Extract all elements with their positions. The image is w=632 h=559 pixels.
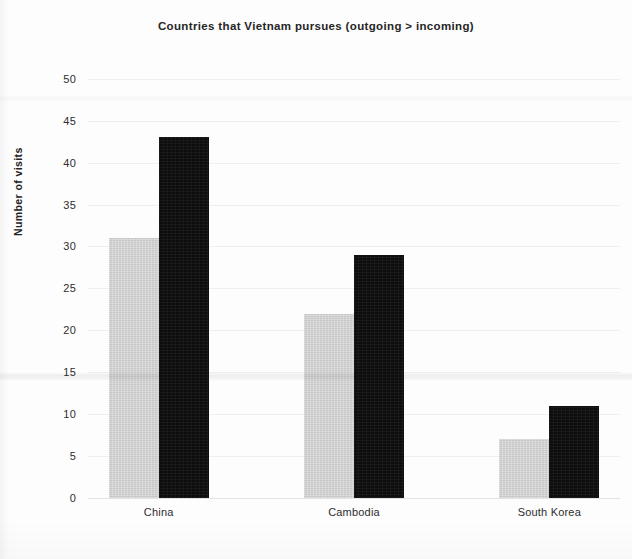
- y-axis-tick-label: 40: [42, 157, 76, 169]
- x-axis-tick-label: Cambodia: [328, 506, 380, 518]
- y-axis-title: Number of visits: [12, 147, 24, 236]
- x-axis-tick-labels: ChinaCambodiaSouth Korea: [88, 506, 620, 528]
- bar-outgoing[interactable]: [354, 255, 404, 498]
- bar-group: [304, 62, 404, 498]
- y-axis-tick-label: 35: [42, 199, 76, 211]
- y-axis-tick-labels: 05101520253035404550: [42, 62, 76, 498]
- bar-outgoing[interactable]: [159, 137, 209, 498]
- y-axis-tick-label: 25: [42, 282, 76, 294]
- bar-incoming[interactable]: [499, 439, 549, 498]
- chart-title: Countries that Vietnam pursues (outgoing…: [0, 20, 632, 32]
- bar-group: [499, 62, 599, 498]
- bar-group: [109, 62, 209, 498]
- y-axis-tick-label: 30: [42, 240, 76, 252]
- y-axis-tick-label: 10: [42, 408, 76, 420]
- bar-incoming[interactable]: [109, 238, 159, 498]
- y-axis-tick-label: 20: [42, 324, 76, 336]
- y-axis-tick-label: 0: [42, 492, 76, 504]
- y-axis-tick-label: 50: [42, 73, 76, 85]
- bar-outgoing[interactable]: [549, 406, 599, 498]
- y-axis-tick-label: 5: [42, 450, 76, 462]
- x-axis-tick-label: China: [144, 506, 174, 518]
- bar-incoming[interactable]: [304, 314, 354, 498]
- y-axis-tick-label: 15: [42, 366, 76, 378]
- plot-area: [88, 62, 620, 498]
- y-axis-tick-label: 45: [42, 115, 76, 127]
- axis-baseline: [88, 498, 620, 499]
- x-axis-tick-label: South Korea: [518, 506, 581, 518]
